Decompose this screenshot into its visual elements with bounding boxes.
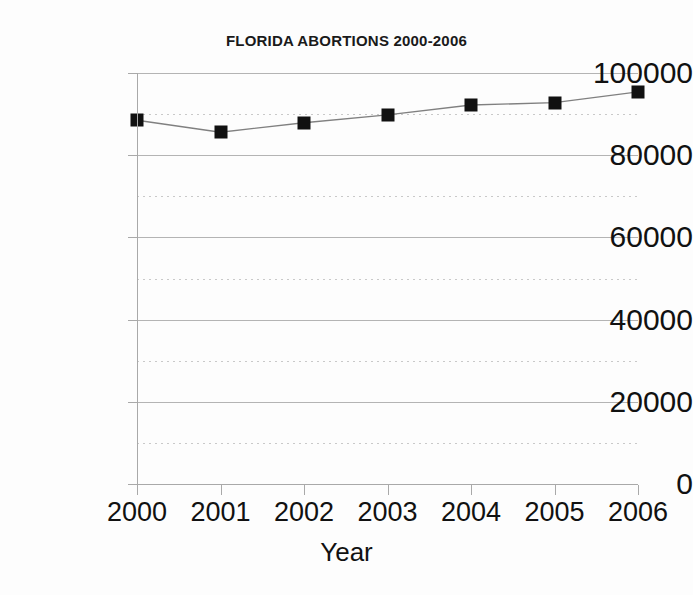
x-axis-tick <box>638 485 639 495</box>
x-axis-title: Year <box>0 537 693 568</box>
data-point-marker <box>465 99 478 112</box>
y-axis-tick <box>128 402 137 403</box>
x-axis-tick <box>388 485 389 495</box>
x-axis-tick <box>137 485 138 495</box>
y-axis-tick-label: 20000 <box>569 385 693 419</box>
data-point-marker <box>298 116 311 129</box>
x-axis-tick <box>221 485 222 495</box>
x-axis-tick <box>304 485 305 495</box>
y-axis-tick-label: 100000 <box>569 56 693 90</box>
y-axis-tick <box>128 237 137 238</box>
data-point-marker <box>548 96 561 109</box>
y-axis-tick <box>128 73 137 74</box>
y-axis-tick <box>128 155 137 156</box>
data-point-marker <box>214 126 227 139</box>
y-axis-tick-label: 60000 <box>569 220 693 254</box>
y-axis-tick-label: 0 <box>569 467 693 501</box>
y-axis-tick-label: 80000 <box>569 138 693 172</box>
x-axis-tick-label: 2006 <box>583 497 693 528</box>
y-axis-tick-label: 40000 <box>569 303 693 337</box>
x-axis-tick <box>555 485 556 495</box>
chart-page: FLORIDA ABORTIONS 2000-2006 020000400006… <box>0 0 693 595</box>
y-axis-line <box>137 73 138 485</box>
data-point-marker <box>381 108 394 121</box>
data-line <box>137 73 638 484</box>
y-axis-tick <box>128 320 137 321</box>
x-axis-tick <box>471 485 472 495</box>
chart-title: FLORIDA ABORTIONS 2000-2006 <box>0 32 693 49</box>
plot-area <box>137 73 638 484</box>
y-axis-tick <box>128 484 137 485</box>
